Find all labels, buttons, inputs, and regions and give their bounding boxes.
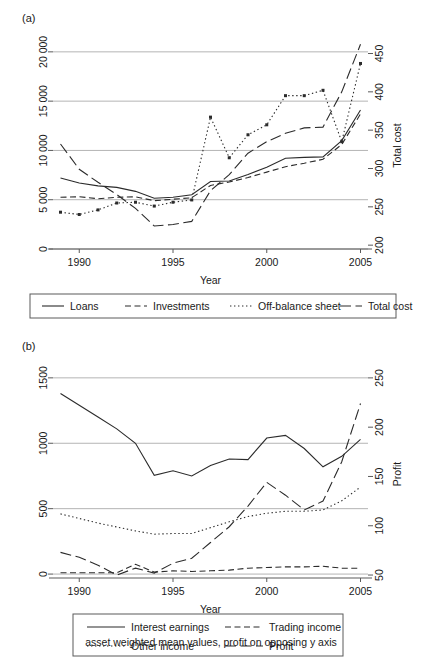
figure-caption: asset weighted mean values, profit on op…: [85, 636, 337, 648]
legend-label-trading-income: Trading income: [269, 621, 341, 633]
y-right-tick-label: 50: [373, 569, 385, 581]
y-right-tick-label: 200: [373, 236, 385, 254]
series-marker: [153, 205, 156, 208]
y-left-tick-label: 1000: [37, 431, 49, 455]
x-tick-label: 1990: [68, 585, 92, 597]
legend-label-total-cost: Total cost: [368, 300, 412, 312]
x-tick-label: 2005: [349, 585, 373, 597]
series-marker: [97, 208, 100, 211]
series-line: [61, 44, 361, 226]
y-right-tick-label: 300: [373, 160, 385, 178]
panel-letter: (a): [22, 12, 35, 24]
series-marker: [322, 89, 325, 92]
series-line: [61, 394, 361, 476]
series-marker: [115, 202, 118, 205]
series-line: [61, 404, 361, 576]
y-left-tick-label: 1500: [37, 366, 49, 390]
panel-a-svg: (a)05 00010 00015 00020 0002002503003504…: [0, 0, 423, 330]
series-marker: [284, 94, 287, 97]
x-axis-title: Year: [200, 274, 222, 286]
x-tick-label: 2000: [255, 585, 279, 597]
series-marker: [340, 140, 343, 143]
x-tick-label: 2005: [349, 256, 373, 268]
y-right-tick-label: 250: [373, 369, 385, 387]
panel-b-svg: (b)05001000150050100150200250Profit19901…: [0, 330, 423, 661]
x-tick-label: 1990: [68, 256, 92, 268]
y-left-tick-label: 0: [37, 246, 49, 252]
y-left-tick-label: 5 000: [37, 186, 49, 212]
series-marker: [247, 133, 250, 136]
series-line: [61, 487, 361, 534]
series-marker: [228, 156, 231, 159]
legend-label-interest-earnings: Interest earnings: [131, 621, 209, 633]
y-right-tick-label: 400: [373, 83, 385, 101]
y-right-tick-label: 200: [373, 418, 385, 436]
series-marker: [78, 213, 81, 216]
y-right-tick-label: 250: [373, 198, 385, 216]
series-marker: [134, 201, 137, 204]
x-tick-label: 2000: [255, 256, 279, 268]
y-left-tick-label: 10 000: [37, 134, 49, 166]
legend-label-off-balance-sheet: Off-balance sheet: [258, 300, 341, 312]
chart-panel-b: (b)05001000150050100150200250Profit19901…: [0, 330, 423, 661]
series-marker: [359, 62, 362, 65]
figure-root: (a)05 00010 00015 00020 0002002503003504…: [0, 0, 423, 661]
series-marker: [172, 201, 175, 204]
series-marker: [190, 198, 193, 201]
legend-label-investments: Investments: [153, 300, 210, 312]
series-marker: [303, 94, 306, 97]
x-tick-label: 1995: [161, 256, 185, 268]
series-line: [61, 63, 361, 214]
series-marker: [59, 211, 62, 214]
y-left-tick-label: 500: [37, 500, 49, 518]
y-right-tick-label: 350: [373, 121, 385, 139]
x-tick-label: 1995: [161, 585, 185, 597]
chart-panel-a: (a)05 00010 00015 00020 0002002503003504…: [0, 0, 423, 330]
x-axis-title: Year: [200, 603, 222, 615]
legend-label-loans: Loans: [70, 300, 99, 312]
y-right-tick-label: 100: [373, 517, 385, 535]
y-left-tick-label: 15 000: [37, 85, 49, 117]
y-left-tick-label: 0: [37, 571, 49, 577]
series-marker: [265, 123, 268, 126]
y-left-tick-label: 20 000: [37, 36, 49, 68]
series-marker: [209, 116, 212, 119]
y-right-axis-title: Profit: [391, 462, 403, 487]
y-right-tick-label: 150: [373, 468, 385, 486]
y-right-axis-title: Total cost: [391, 123, 403, 167]
y-right-tick-label: 450: [373, 45, 385, 63]
panel-letter: (b): [22, 340, 35, 352]
